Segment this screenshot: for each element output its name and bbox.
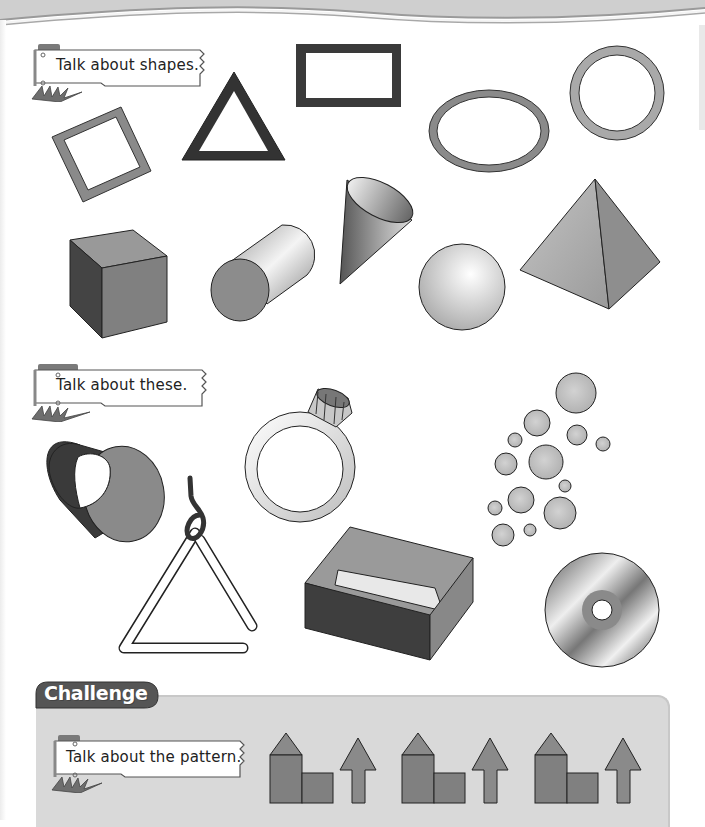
square-shape <box>52 107 151 202</box>
prompt-banner-shapes: Talk about shapes. <box>30 42 270 102</box>
challenge-tab: Challenge <box>34 680 160 710</box>
challenge-title: Challenge <box>44 682 148 704</box>
header-wave-band <box>0 0 705 30</box>
prompt-text: Talk about shapes. <box>56 56 199 74</box>
pyramid-shape <box>520 179 660 309</box>
triangle-instrument-object <box>124 478 252 648</box>
circle-shape <box>570 46 664 140</box>
cube-shape <box>70 230 167 338</box>
prompt-text: Talk about the pattern. <box>66 748 241 766</box>
oval-shape <box>429 90 549 172</box>
sphere-shape <box>419 244 505 330</box>
prompt-banner-pattern: Talk about the pattern. <box>50 733 290 793</box>
bubbles-object <box>488 373 610 546</box>
page-left-edge-shadow <box>0 20 6 820</box>
rectangle-shape <box>296 44 401 107</box>
cone-shape <box>340 168 420 284</box>
prompt-text: Talk about these. <box>56 376 187 394</box>
page-edge-strip <box>699 25 705 130</box>
box-object <box>305 527 473 660</box>
tube-object <box>47 440 172 548</box>
prompt-banner-these: Talk about these. <box>30 362 270 422</box>
cylinder-shape <box>211 225 315 321</box>
cd-object <box>545 553 659 667</box>
